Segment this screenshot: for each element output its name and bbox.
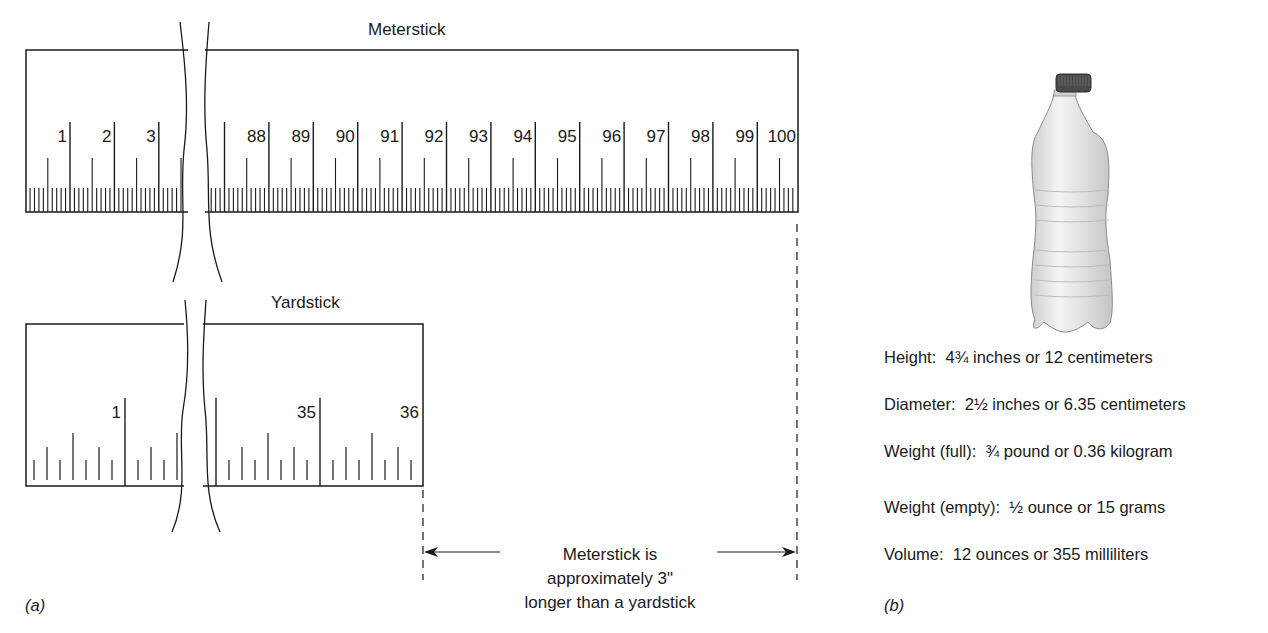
meterstick-label: 89 bbox=[291, 127, 310, 146]
spec-weight-full: Weight (full): ¾ pound or 0.36 kilogram bbox=[884, 443, 1173, 460]
spec-weight-empty: Weight (empty): ½ ounce or 15 grams bbox=[884, 499, 1165, 516]
comparison-note-line3: longer than a yardstick bbox=[500, 591, 720, 615]
meterstick-label: 99 bbox=[735, 127, 754, 146]
meterstick-label: 88 bbox=[247, 127, 266, 146]
meterstick-label: 97 bbox=[647, 127, 666, 146]
meterstick-label: 90 bbox=[336, 127, 355, 146]
meterstick: 123888990919293949596979899100 bbox=[26, 22, 798, 282]
comparison-note-line1: Meterstick is bbox=[500, 543, 720, 567]
rulers-diagram: 123888990919293949596979899100 13536 bbox=[0, 0, 1268, 633]
figure: 123888990919293949596979899100 13536 Met… bbox=[0, 0, 1268, 633]
yardstick-label: 36 bbox=[400, 403, 419, 422]
meterstick-label: 96 bbox=[602, 127, 621, 146]
meterstick-title: Meterstick bbox=[368, 21, 445, 38]
comparison-note-line2: approximately 3" bbox=[500, 567, 720, 591]
spec-volume: Volume: 12 ounces or 355 milliliters bbox=[884, 546, 1148, 563]
water-bottle-illustration bbox=[1031, 74, 1112, 332]
spec-diameter: Diameter: 2½ inches or 6.35 centimeters bbox=[884, 396, 1186, 413]
spec-height: Height: 4¾ inches or 12 centimeters bbox=[884, 349, 1153, 366]
yardstick-label: 35 bbox=[297, 403, 316, 422]
meterstick-label: 91 bbox=[380, 127, 399, 146]
meterstick-label: 98 bbox=[691, 127, 710, 146]
meterstick-label: 3 bbox=[146, 127, 155, 146]
comparison-dimension-lines bbox=[423, 224, 797, 580]
meterstick-label: 92 bbox=[425, 127, 444, 146]
meterstick-label: 2 bbox=[102, 127, 111, 146]
meterstick-label: 93 bbox=[469, 127, 488, 146]
meterstick-label: 1 bbox=[58, 127, 67, 146]
meterstick-label: 95 bbox=[558, 127, 577, 146]
yardstick: 13536 bbox=[26, 300, 423, 532]
yardstick-title: Yardstick bbox=[271, 294, 340, 311]
meterstick-label: 94 bbox=[513, 127, 532, 146]
caption-b: (b) bbox=[884, 597, 904, 614]
comparison-note: Meterstick is approximately 3" longer th… bbox=[500, 543, 720, 615]
caption-a: (a) bbox=[25, 597, 45, 614]
yardstick-label: 1 bbox=[112, 403, 121, 422]
meterstick-label: 100 bbox=[768, 127, 796, 146]
